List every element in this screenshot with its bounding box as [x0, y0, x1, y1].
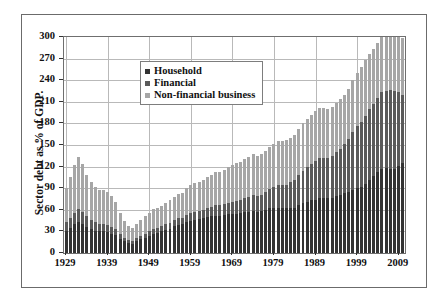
bar-segment-household — [139, 239, 142, 253]
bar-segment-financial — [202, 210, 205, 219]
bar-segment-financial — [318, 158, 321, 198]
y-axis-tick-mark — [59, 187, 63, 188]
bar-segment-nonfinancial-business — [218, 172, 221, 206]
bar-segment-household — [326, 198, 329, 253]
bar-segment-household — [235, 214, 238, 253]
bar-segment-household — [252, 211, 255, 253]
bar-segment-household — [198, 219, 201, 253]
bar-segment-nonfinancial-business — [81, 164, 84, 212]
y-axis-tick-label: 210 — [21, 96, 55, 106]
bar-segment-nonfinancial-business — [160, 206, 163, 227]
bar-segment-financial — [256, 196, 259, 212]
y-axis-tick-label: 240 — [21, 74, 55, 84]
bar-segment-financial — [235, 201, 238, 214]
bar-segment-nonfinancial-business — [285, 140, 288, 185]
bar-segment-financial — [185, 215, 188, 222]
legend-swatch-nonfinancial-business-icon — [145, 93, 150, 98]
x-axis-tick-label: 1969 — [209, 257, 253, 268]
bar-segment-nonfinancial-business — [135, 224, 138, 238]
bar-segment-nonfinancial-business — [144, 216, 147, 233]
bar-segment-household — [343, 193, 346, 253]
bar-segment-household — [372, 176, 375, 253]
bar-segment-household — [376, 172, 379, 253]
x-axis-tick-mark — [107, 252, 108, 255]
bar-segment-household — [368, 180, 371, 253]
bar-segment-financial — [69, 218, 72, 228]
x-axis-tick-label: 1929 — [43, 257, 87, 268]
bar-segment-nonfinancial-business — [372, 49, 375, 104]
x-axis-tick-label: 1959 — [168, 257, 212, 268]
bar-segment-financial — [331, 156, 334, 198]
bar-segment-household — [306, 202, 309, 253]
bar-segment-financial — [85, 216, 88, 227]
bar-segment-nonfinancial-business — [94, 187, 97, 222]
bar-segment-nonfinancial-business — [189, 185, 192, 213]
bar-segment-financial — [347, 139, 350, 192]
bar-segment-financial — [227, 203, 230, 215]
x-axis-tick-mark — [398, 252, 399, 255]
bar-segment-nonfinancial-business — [152, 209, 155, 228]
bar-segment-financial — [364, 116, 367, 184]
bar-segment-nonfinancial-business — [214, 172, 217, 205]
bar-segment-nonfinancial-business — [223, 170, 226, 205]
y-axis-tick-mark — [59, 79, 63, 80]
bar-segment-household — [227, 214, 230, 253]
bar-segment-nonfinancial-business — [297, 129, 300, 175]
bar-segment-household — [339, 195, 342, 253]
bar-segment-household — [281, 208, 284, 253]
y-axis-tick-mark — [59, 58, 63, 59]
x-axis-tick-mark — [65, 252, 66, 255]
bar-segment-nonfinancial-business — [360, 67, 363, 122]
bar-segment-financial — [339, 149, 342, 195]
x-axis-tick-label: 1999 — [334, 257, 378, 268]
bar-segment-financial — [335, 152, 338, 196]
bar-segment-nonfinancial-business — [351, 80, 354, 132]
bar-segment-household — [256, 212, 259, 253]
bar-segment-household — [356, 188, 359, 253]
bar-segment-nonfinancial-business — [326, 109, 329, 158]
bar-segment-household — [131, 244, 134, 253]
bar-segment-nonfinancial-business — [368, 54, 371, 109]
bar-segment-financial — [210, 207, 213, 216]
bar-segment-nonfinancial-business — [264, 151, 267, 192]
legend-label-nonfinancial-business: Non-financial business — [154, 89, 255, 101]
bar-segment-nonfinancial-business — [306, 119, 309, 167]
bar-segment-financial — [272, 187, 275, 208]
bar-segment-nonfinancial-business — [277, 141, 280, 185]
y-axis-tick-mark — [59, 166, 63, 167]
y-axis-tick-mark — [59, 122, 63, 123]
bar-segment-household — [173, 226, 176, 253]
bar-segment-financial — [268, 189, 271, 208]
bar-segment-financial — [368, 109, 371, 180]
bar-segment-nonfinancial-business — [256, 156, 259, 196]
bar-segment-financial — [281, 185, 284, 208]
legend-swatch-household-icon — [145, 69, 150, 74]
bar-segment-nonfinancial-business — [331, 107, 334, 156]
y-axis-tick-mark — [59, 101, 63, 102]
y-axis-tick-label: 60 — [21, 204, 55, 214]
legend-item-nonfinancial-business: Non-financial business — [145, 89, 255, 101]
y-axis-tick-mark — [59, 252, 63, 253]
legend-label-financial: Financial — [154, 77, 196, 89]
bar-segment-household — [364, 184, 367, 253]
bar-segment-nonfinancial-business — [247, 157, 250, 197]
bar-segment-nonfinancial-business — [65, 188, 68, 223]
bar-segment-household — [264, 210, 267, 253]
bar-segment-nonfinancial-business — [90, 182, 93, 219]
bar-segment-household — [318, 198, 321, 253]
bar-segment-financial — [302, 171, 305, 203]
bar-segment-household — [322, 198, 325, 253]
x-axis-tick-mark — [273, 252, 274, 255]
legend-item-financial: Financial — [145, 77, 255, 89]
bar-segment-household — [243, 212, 246, 253]
bar-segment-nonfinancial-business — [318, 108, 321, 158]
y-axis-tick-mark — [59, 36, 63, 37]
bar-segment-nonfinancial-business — [260, 154, 263, 194]
bar-segment-household — [272, 208, 275, 253]
bar-segment-household — [144, 238, 147, 253]
bar-segment-household — [210, 216, 213, 253]
bar-segment-household — [65, 231, 68, 253]
y-axis-tick-label: 180 — [21, 117, 55, 127]
bar-segment-household — [164, 230, 167, 253]
bar-segment-financial — [77, 209, 80, 222]
